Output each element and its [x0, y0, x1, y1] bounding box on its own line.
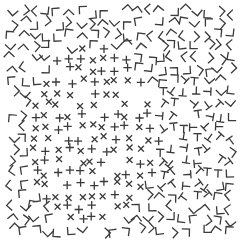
cross-glyph-icon [111, 191, 118, 198]
cross-glyph-icon [64, 202, 71, 209]
cross-glyph-icon [102, 90, 112, 100]
l-glyph-icon [171, 75, 178, 82]
t-glyph-icon [205, 132, 215, 142]
l-glyph-icon [9, 165, 19, 175]
l-glyph-icon [31, 29, 41, 39]
l-glyph-icon [226, 170, 233, 177]
cross-glyph-icon [78, 110, 85, 117]
l-glyph-icon [53, 229, 60, 236]
l-glyph-icon [189, 204, 199, 214]
l-glyph-icon [179, 17, 187, 25]
cross-glyph-icon [97, 212, 107, 222]
l-glyph-icon [212, 63, 222, 73]
l-glyph-icon [149, 204, 156, 211]
l-glyph-icon [20, 5, 30, 15]
cross-glyph-icon [39, 171, 49, 181]
cross-glyph-icon [55, 126, 62, 133]
l-glyph-icon [64, 10, 74, 20]
cross-glyph-icon [125, 143, 135, 153]
cross-glyph-icon [111, 68, 118, 75]
l-glyph-icon [217, 206, 224, 213]
l-glyph-icon [8, 77, 16, 85]
t-glyph-icon [157, 158, 167, 168]
l-glyph-icon [19, 215, 29, 225]
t-glyph-icon [167, 167, 177, 177]
l-glyph-icon [90, 41, 97, 48]
t-glyph-icon [167, 145, 175, 153]
l-glyph-icon [229, 114, 236, 121]
cross-glyph-icon [75, 206, 82, 213]
l-glyph-icon [215, 19, 225, 29]
cross-glyph-icon [76, 146, 86, 156]
t-glyph-icon [159, 99, 169, 109]
cross-glyph-icon [67, 63, 74, 70]
t-glyph-icon [213, 99, 223, 109]
l-glyph-icon [143, 190, 153, 200]
l-glyph-icon [147, 31, 157, 41]
l-glyph-icon [204, 11, 211, 18]
l-glyph-icon [205, 19, 212, 26]
cross-glyph-icon [33, 114, 40, 121]
t-glyph-icon [194, 166, 204, 176]
l-glyph-icon [33, 225, 41, 233]
t-glyph-icon [170, 123, 178, 131]
l-glyph-icon [166, 200, 176, 210]
t-glyph-icon [165, 159, 175, 169]
l-glyph-icon [30, 22, 37, 29]
t-glyph-icon [167, 112, 177, 122]
t-glyph-icon [201, 121, 211, 131]
t-glyph-icon [179, 193, 189, 203]
l-glyph-icon [204, 53, 214, 63]
cross-glyph-icon [91, 182, 98, 189]
cross-glyph-icon [52, 89, 62, 99]
cross-glyph-icon [111, 54, 118, 61]
l-glyph-icon [65, 29, 73, 37]
cross-glyph-icon [28, 143, 38, 153]
t-glyph-icon [193, 179, 203, 189]
l-glyph-icon [167, 212, 174, 219]
cross-glyph-icon [53, 79, 60, 86]
l-glyph-icon [29, 212, 39, 222]
cross-glyph-icon [91, 78, 98, 85]
l-glyph-icon [30, 42, 40, 52]
cross-glyph-icon [42, 148, 49, 155]
t-glyph-icon [193, 87, 200, 94]
cross-glyph-icon [90, 134, 100, 144]
l-glyph-icon [216, 86, 226, 96]
cross-glyph-icon [75, 101, 85, 111]
l-glyph-icon [132, 6, 142, 16]
l-glyph-icon [181, 4, 191, 14]
cross-glyph-icon [146, 125, 153, 132]
l-glyph-icon [136, 223, 146, 233]
cross-glyph-icon [77, 44, 87, 54]
l-glyph-icon [19, 190, 27, 198]
cross-glyph-icon [34, 167, 41, 174]
cross-glyph-icon [42, 79, 52, 89]
cross-glyph-icon [123, 75, 133, 85]
l-glyph-icon [226, 227, 234, 235]
l-glyph-icon [132, 204, 139, 211]
cross-glyph-icon [124, 193, 134, 203]
cross-glyph-icon [64, 193, 74, 203]
cross-glyph-icon [66, 167, 73, 174]
l-glyph-icon [214, 192, 222, 200]
l-glyph-icon [189, 215, 197, 223]
cross-glyph-icon [65, 55, 72, 62]
t-glyph-icon [203, 168, 210, 175]
l-glyph-icon [190, 32, 200, 42]
t-glyph-icon [194, 191, 201, 198]
cross-glyph-icon [109, 145, 119, 155]
cross-glyph-icon [155, 138, 162, 145]
cross-glyph-icon [64, 123, 71, 130]
l-glyph-icon [19, 31, 29, 41]
l-glyph-icon [200, 204, 210, 214]
cross-glyph-icon [54, 145, 64, 155]
t-glyph-icon [179, 74, 189, 84]
l-glyph-icon [56, 23, 63, 30]
t-glyph-icon [194, 134, 201, 141]
cross-glyph-icon [97, 122, 107, 132]
l-glyph-icon [225, 190, 235, 200]
l-glyph-icon [226, 217, 236, 227]
t-glyph-icon [195, 147, 203, 155]
t-glyph-icon [194, 160, 202, 168]
